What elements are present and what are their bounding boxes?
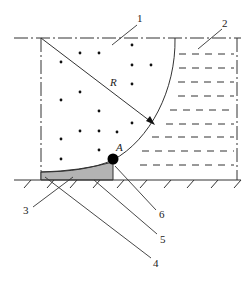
- label-3: 3: [23, 204, 29, 216]
- leader-1: [112, 25, 137, 45]
- region-2-dashes: [140, 54, 234, 165]
- boundary-lines: [14, 38, 241, 180]
- leader-5: [94, 180, 157, 234]
- label-4: 4: [153, 257, 159, 269]
- ground: [14, 180, 241, 188]
- leader-lines: [33, 25, 222, 258]
- diagram-canvas: 1 2 3 4 5 6 A R: [0, 0, 252, 282]
- shaded-fillet-region: [41, 162, 113, 180]
- leader-2: [198, 29, 222, 49]
- label-6: 6: [159, 208, 165, 220]
- ground-hatching: [24, 180, 241, 188]
- label-radius: R: [109, 76, 117, 88]
- circular-arc: [41, 38, 175, 172]
- label-point-a: A: [115, 141, 123, 153]
- leader-4: [45, 177, 151, 258]
- label-5: 5: [160, 233, 166, 245]
- label-1: 1: [137, 12, 143, 24]
- label-2: 2: [222, 17, 228, 29]
- point-a-marker: [108, 154, 119, 165]
